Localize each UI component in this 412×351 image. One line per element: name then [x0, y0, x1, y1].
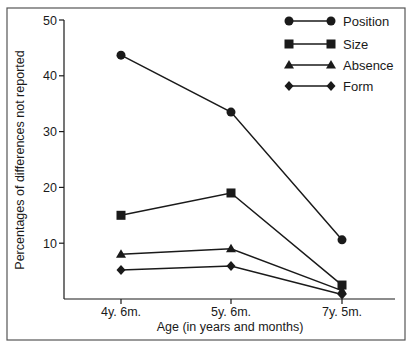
square-marker-icon [117, 211, 126, 220]
legend-label: Position [343, 14, 389, 29]
y-tick-label: 40 [43, 69, 57, 83]
x-tick-label: 7y. 5m. [322, 305, 362, 319]
x-axis-label: Age (in years and months) [157, 320, 304, 334]
diamond-marker-icon [327, 81, 336, 91]
legend-item-absence: Absence [284, 58, 394, 73]
y-tick-label: 10 [43, 237, 57, 251]
series-size [117, 188, 347, 289]
legend-item-position: Position [285, 14, 390, 29]
circle-marker-icon [285, 17, 294, 26]
series-position [117, 51, 347, 245]
series-form [117, 261, 347, 299]
line-chart: 10203040504y. 6m.5y. 6m.7y. 5m. Position… [0, 0, 412, 351]
legend-label: Form [343, 79, 373, 94]
square-marker-icon [227, 188, 236, 197]
square-marker-icon [327, 40, 336, 49]
diamond-marker-icon [227, 261, 236, 271]
y-tick-label: 20 [43, 181, 57, 195]
chart-frame: 10203040504y. 6m.5y. 6m.7y. 5m. Position… [0, 0, 412, 351]
diamond-marker-icon [117, 265, 126, 275]
circle-marker-icon [117, 51, 126, 60]
circle-marker-icon [338, 235, 347, 244]
y-tick-label: 50 [43, 14, 57, 28]
series-line [121, 193, 342, 285]
legend-label: Absence [343, 58, 394, 73]
triangle-marker-icon [226, 244, 236, 253]
series-layer [116, 51, 347, 300]
legend-label: Size [343, 37, 368, 52]
legend: PositionSizeAbsenceForm [284, 14, 394, 94]
legend-item-size: Size [285, 37, 369, 52]
circle-marker-icon [327, 17, 336, 26]
square-marker-icon [285, 40, 294, 49]
legend-item-form: Form [285, 79, 374, 94]
circle-marker-icon [227, 108, 236, 117]
y-axis-label: Percentages of differences not reported [13, 50, 27, 269]
diamond-marker-icon [285, 81, 294, 91]
x-tick-label: 4y. 6m. [101, 305, 141, 319]
y-tick-label: 30 [43, 125, 57, 139]
series-line [121, 55, 342, 240]
x-tick-label: 5y. 6m. [211, 305, 251, 319]
